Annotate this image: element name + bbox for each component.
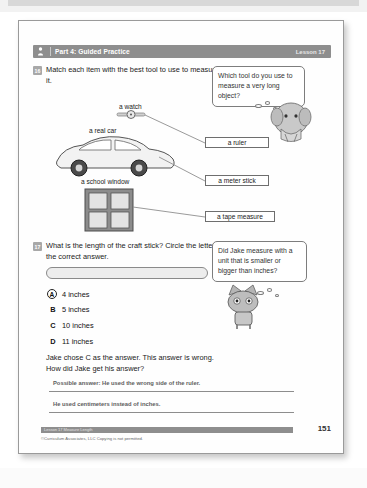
choice-d-text: 11 inches (62, 337, 93, 346)
scan-top-strip-dark (8, 0, 359, 6)
question-16-bubble: Which tool do you use to measure a very … (212, 66, 305, 107)
choice-c-text: 10 inches (62, 321, 94, 330)
choice-a[interactable]: A 4 inches (47, 289, 90, 299)
tool-a-ruler-box[interactable]: a ruler (205, 137, 269, 148)
question-17-bubble: Did Jake measure with a unit that is sma… (212, 241, 307, 282)
page-root: Part 4: Guided Practice Lesson 17 16 Mat… (0, 0, 367, 488)
answer-line-2-text: He used centimeters instead of inches. (53, 401, 160, 407)
tool-a-tape-measure-box[interactable]: a tape measure (205, 211, 275, 222)
bubble-tail-dot-mid-2 (267, 288, 272, 292)
copyright-notice: ©Curriculum Associates, LLC Copying is n… (41, 436, 143, 441)
bubble-tail-dot-mid-1 (265, 101, 270, 105)
part-header-bar: Part 4: Guided Practice Lesson 17 (33, 45, 331, 58)
scan-artifact-text (8, 476, 11, 485)
answer-line-1-text: Possible answer: He used the wrong side … (53, 380, 200, 386)
question-17-number: 17 (33, 242, 42, 251)
choice-a-text: 4 inches (62, 290, 90, 299)
page-number: 151 (318, 424, 331, 433)
question-16-number: 16 (33, 66, 42, 75)
bubble-tail-dot-large-2 (257, 291, 264, 295)
choice-b-letter: B (47, 305, 59, 314)
part-title: Part 4: Guided Practice (55, 48, 130, 55)
choice-a-letter: A (47, 289, 57, 299)
person-icon (35, 45, 46, 58)
question-17-followup: Jake chose C as the answer. This answer … (46, 353, 226, 374)
item-a-school-window-label: a school window (81, 178, 129, 185)
choice-c-letter: C (47, 321, 59, 330)
footer-bar: Lesson 17 Measure Length (41, 427, 293, 433)
choice-d[interactable]: D 11 inches (47, 337, 93, 346)
tool-a-meter-stick-box[interactable]: a meter stick (205, 175, 269, 186)
footer-bar-label: Lesson 17 Measure Length (44, 427, 92, 433)
choice-b-text: 5 inches (62, 305, 90, 314)
question-16-text: Match each item with the best tool to us… (46, 65, 221, 86)
choice-c[interactable]: C 10 inches (47, 321, 94, 330)
choice-d-letter: D (47, 337, 59, 346)
craft-stick-illustration (46, 267, 208, 279)
bubble-tail-dot-large-1 (255, 104, 262, 108)
item-a-real-car-label: a real car (89, 127, 117, 134)
bubble-tail-dot-small-2 (275, 294, 279, 297)
header-divider (50, 47, 51, 56)
scan-bottom-area (0, 468, 367, 488)
workbook-page-sheet: Part 4: Guided Practice Lesson 17 16 Mat… (18, 20, 344, 454)
item-a-watch-label: a watch (119, 103, 142, 110)
question-17-text: What is the length of the craft stick? C… (46, 241, 226, 262)
choice-b[interactable]: B 5 inches (47, 305, 90, 314)
lesson-label: Lesson 17 (296, 49, 325, 55)
bubble-tail-dot-small-1 (273, 107, 277, 110)
